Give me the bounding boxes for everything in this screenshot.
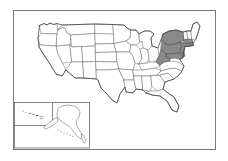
state-south-dakota [95, 34, 114, 45]
state-nebraska [96, 44, 117, 53]
hawaii-inset [22, 110, 43, 119]
alaska-inset [44, 105, 86, 143]
state-new-mexico [83, 62, 97, 80]
insets-layer [15, 103, 90, 149]
state-alabama [142, 76, 152, 91]
state-oklahoma [96, 62, 119, 71]
state-kansas [96, 52, 118, 62]
state-wyoming [71, 34, 96, 48]
state-tennessee [133, 68, 161, 76]
state-arizona [66, 62, 84, 78]
state-florida [146, 89, 179, 112]
state-colorado [82, 46, 96, 62]
us-map-figure [0, 0, 228, 161]
state-north-dakota [95, 24, 114, 34]
state-massachusetts [183, 39, 193, 44]
state-oregon [38, 34, 57, 47]
contiguous-states-layer [38, 22, 200, 112]
state-utah [70, 45, 83, 63]
us-map-svg [0, 0, 228, 161]
